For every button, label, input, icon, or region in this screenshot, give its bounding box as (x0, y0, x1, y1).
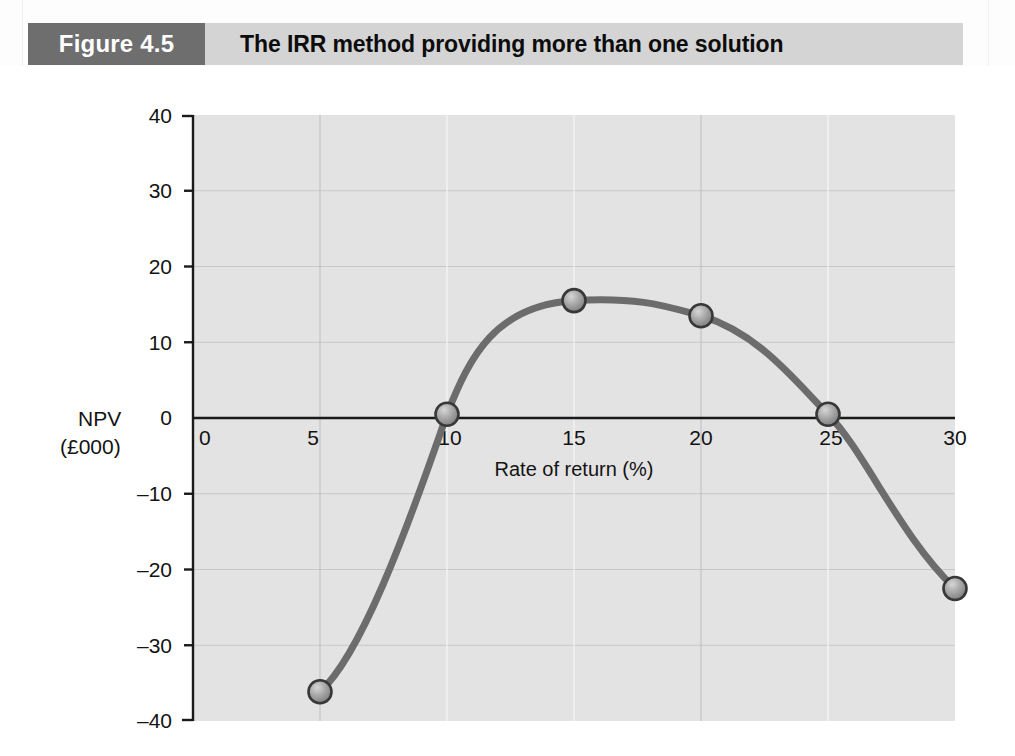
data-point-x25 (817, 403, 840, 426)
chart-container: 40 30 20 10 0 –10 –20 –30 –40 NPV (£000) (0, 66, 1015, 756)
x-tick-label-0: 0 (199, 426, 211, 449)
x-tick-label-5: 5 (307, 426, 319, 449)
y-tick-label-minus-10: –10 (137, 482, 172, 505)
y-tick-label-10: 10 (149, 331, 172, 354)
y-axis (182, 115, 193, 721)
y-axis-title-line2: (£000) (60, 435, 121, 458)
y-axis-title-line1: NPV (78, 407, 121, 430)
x-tick-label-20: 20 (689, 426, 712, 449)
figure-header: Figure 4.5 The IRR method providing more… (28, 23, 963, 65)
data-point-x15 (563, 289, 586, 312)
y-tick-label-0: 0 (160, 406, 172, 429)
y-tick-label-minus-20: –20 (137, 558, 172, 581)
y-tick-label-30: 30 (149, 179, 172, 202)
figure-number-tag: Figure 4.5 (28, 23, 205, 65)
figure-title: The IRR method providing more than one s… (205, 23, 963, 65)
x-tick-label-15: 15 (562, 426, 585, 449)
data-point-x30 (944, 577, 967, 600)
npv-irr-chart: 40 30 20 10 0 –10 –20 –30 –40 NPV (£000) (0, 66, 1015, 756)
y-tick-label-minus-30: –30 (137, 634, 172, 657)
y-tick-label-20: 20 (149, 255, 172, 278)
x-axis-title: Rate of return (%) (495, 458, 654, 480)
y-axis-ticks (184, 191, 193, 646)
data-point-x10 (436, 403, 459, 426)
y-tick-label-40: 40 (149, 104, 172, 127)
data-point-x20 (690, 304, 713, 327)
y-axis-title: NPV (£000) (60, 407, 121, 458)
y-tick-labels: 40 30 20 10 0 –10 –20 –30 –40 (137, 104, 172, 732)
y-tick-label-minus-40: –40 (137, 709, 172, 732)
data-point-x5 (309, 680, 332, 703)
plot-wrapper: 40 30 20 10 0 –10 –20 –30 –40 NPV (£000) (0, 66, 1015, 756)
x-tick-label-30: 30 (943, 426, 966, 449)
figure-page: Figure 4.5 The IRR method providing more… (0, 0, 1015, 756)
